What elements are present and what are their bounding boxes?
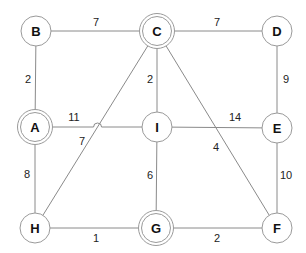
node-label: I [155, 120, 159, 135]
edge-weight-g-f: 2 [214, 232, 220, 244]
node-i: I [142, 112, 172, 142]
edge-c-f [157, 31, 277, 228]
graph-diagram: 77229111474861012 BCDAIEHGF [0, 0, 306, 253]
edge-weight-a-i: 11 [68, 111, 79, 123]
edge-a-i [35, 123, 157, 127]
edge-weight-c-f: 4 [213, 141, 219, 153]
edge-weight-c-h: 7 [79, 135, 85, 147]
node-b: B [21, 16, 51, 46]
edge-weight-c-d: 7 [214, 16, 220, 28]
node-label: F [273, 221, 281, 236]
edge-weight-b-a: 2 [25, 73, 31, 85]
node-h: H [20, 213, 50, 243]
nodes-layer: BCDAIEHGF [18, 14, 293, 246]
edge-weight-e-f: 10 [280, 169, 292, 181]
node-e: E [262, 113, 292, 143]
edge-i-e [157, 127, 277, 128]
edge-weight-h-g: 1 [93, 232, 99, 244]
node-c: C [140, 14, 175, 49]
node-label: D [272, 24, 281, 39]
node-label: B [31, 24, 40, 39]
edge-weight-i-e: 14 [229, 111, 241, 123]
node-a: A [18, 110, 53, 145]
edge-c-h [35, 31, 157, 228]
node-g: G [139, 211, 174, 246]
node-label: E [273, 121, 282, 136]
edge-weight-a-h: 8 [24, 168, 30, 180]
node-label: H [30, 221, 39, 236]
node-label: A [30, 120, 40, 135]
edge-weight-c-i: 2 [147, 73, 153, 85]
node-f: F [262, 213, 292, 243]
node-label: C [152, 24, 162, 39]
node-d: D [262, 16, 292, 46]
node-label: G [151, 221, 161, 236]
edge-weight-d-e: 9 [283, 73, 289, 85]
edge-weight-i-g: 6 [147, 169, 153, 181]
edge-weight-b-c: 7 [93, 16, 99, 28]
